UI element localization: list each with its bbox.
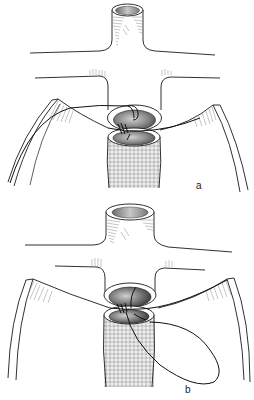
graft bbox=[107, 128, 161, 188]
anastomosis-illustration-b bbox=[0, 200, 254, 400]
vessel-top-trunk bbox=[25, 204, 232, 252]
panel-b: b bbox=[0, 200, 254, 400]
vessel-cut-end bbox=[104, 283, 156, 307]
panel-label-b: b bbox=[185, 384, 191, 395]
retractor-left bbox=[8, 279, 110, 380]
retractor-left bbox=[8, 99, 108, 186]
vessel-lower-branch bbox=[35, 69, 220, 110]
vessel-top-trunk bbox=[30, 4, 215, 55]
panel-label-a: a bbox=[196, 180, 202, 191]
retractor-right bbox=[160, 105, 248, 192]
retractor-right bbox=[158, 278, 250, 382]
graft bbox=[103, 306, 154, 387]
panel-a: a bbox=[0, 0, 254, 200]
anastomosis-illustration-a bbox=[0, 0, 254, 200]
